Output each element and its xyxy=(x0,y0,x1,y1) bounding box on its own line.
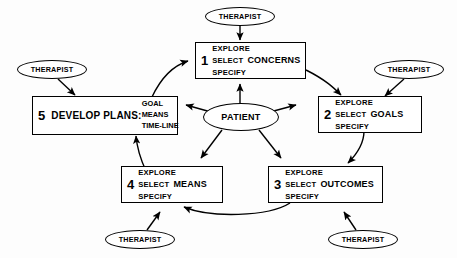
step-4-line-explore: EXPLORE xyxy=(138,167,207,178)
step-2-number: 2 xyxy=(319,108,335,121)
step-4-line-select: SELECT xyxy=(138,179,169,190)
step-1-lines: EXPLORE SELECT CONCERNS SPECIFY xyxy=(212,43,300,78)
step-4-lines: EXPLORE SELECT MEANS SPECIFY xyxy=(138,167,207,202)
step-1-number: 1 xyxy=(196,54,212,67)
step-3-number: 3 xyxy=(269,178,285,191)
step-3-line-select: SELECT xyxy=(285,179,316,190)
step-1-topic: CONCERNS xyxy=(243,54,300,67)
edge-5-to-1 xyxy=(152,61,188,97)
edge-2-to-3 xyxy=(348,131,364,163)
edge-patient-to-3 xyxy=(259,130,281,158)
step-5-col-goal: GOAL xyxy=(142,99,163,110)
step-4-line-specify: SPECIFY xyxy=(138,191,207,202)
step-5-col-timeline: TIME-LINE xyxy=(142,121,179,132)
step-2-line-specify: SPECIFY xyxy=(335,121,403,132)
step-1-select-row: SELECT CONCERNS xyxy=(212,54,300,67)
therapist-ellipse-bottom-right[interactable]: THERAPIST xyxy=(328,230,398,249)
step-3-select-row: SELECT OUTCOMES xyxy=(285,178,374,191)
step-2-select-row: SELECT GOALS xyxy=(335,108,403,121)
edge-therapist-bottomleft-to-4 xyxy=(147,212,160,230)
step-2-line-select: SELECT xyxy=(335,109,366,120)
step-4-select-row: SELECT MEANS xyxy=(138,178,207,191)
edge-therapist-bottomright-to-3 xyxy=(344,212,356,230)
step-5-title: DEVELOP PLANS: xyxy=(49,110,141,121)
step-1-line-specify: SPECIFY xyxy=(212,67,300,78)
step-5-columns: GOAL MEANS TIME-LINE xyxy=(142,99,187,131)
edge-1-to-2 xyxy=(306,70,341,95)
step-2-topic: GOALS xyxy=(366,108,403,121)
edge-therapist-right-to-2 xyxy=(385,79,404,96)
step-4-number: 4 xyxy=(122,178,138,191)
step-5-number: 5 xyxy=(33,109,49,122)
step-5-develop-plans[interactable]: 5 DEVELOP PLANS: GOAL MEANS TIME-LINE xyxy=(32,96,178,135)
therapist-ellipse-bottom-left[interactable]: THERAPIST xyxy=(105,230,175,249)
step-3-outcomes[interactable]: 3 EXPLORE SELECT OUTCOMES SPECIFY xyxy=(268,166,383,203)
step-4-topic: MEANS xyxy=(169,178,207,191)
step-3-line-explore: EXPLORE xyxy=(285,167,374,178)
step-1-line-select: SELECT xyxy=(212,55,243,66)
step-2-line-explore: EXPLORE xyxy=(335,97,403,108)
step-3-topic: OUTCOMES xyxy=(316,178,374,191)
step-3-lines: EXPLORE SELECT OUTCOMES SPECIFY xyxy=(285,167,374,202)
diagram-canvas: 1 EXPLORE SELECT CONCERNS SPECIFY 2 EXPL… xyxy=(0,0,457,258)
edge-therapist-left-to-5 xyxy=(58,79,75,95)
patient-ellipse[interactable]: PATIENT xyxy=(203,103,279,131)
edge-3-to-4 xyxy=(184,203,290,214)
therapist-ellipse-left[interactable]: THERAPIST xyxy=(17,60,87,79)
step-2-goals[interactable]: 2 EXPLORE SELECT GOALS SPECIFY xyxy=(318,96,422,133)
step-2-lines: EXPLORE SELECT GOALS SPECIFY xyxy=(335,97,403,132)
therapist-ellipse-right[interactable]: THERAPIST xyxy=(374,60,444,79)
step-1-line-explore: EXPLORE xyxy=(212,43,300,54)
edge-patient-to-4 xyxy=(201,130,222,158)
step-1-concerns[interactable]: 1 EXPLORE SELECT CONCERNS SPECIFY xyxy=(195,42,306,79)
step-4-means[interactable]: 4 EXPLORE SELECT MEANS SPECIFY xyxy=(121,166,223,203)
therapist-ellipse-top[interactable]: THERAPIST xyxy=(205,7,275,26)
step-5-col-means: MEANS xyxy=(142,110,169,121)
step-3-line-specify: SPECIFY xyxy=(285,191,374,202)
